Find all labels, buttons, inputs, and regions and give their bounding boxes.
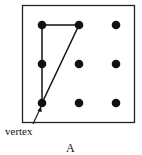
geoboard-diagram: vertex A <box>0 0 142 155</box>
peg-dot <box>112 60 121 69</box>
peg-dot <box>38 99 47 108</box>
figure-caption: A <box>66 141 75 155</box>
vertex-label: vertex <box>5 125 33 137</box>
peg-dot <box>38 60 47 69</box>
peg-dot <box>75 21 84 30</box>
peg-dot <box>75 99 84 108</box>
peg-dot <box>38 21 47 30</box>
peg-dot <box>75 60 84 69</box>
peg-dot <box>112 99 121 108</box>
triangle <box>42 25 79 103</box>
peg-dot <box>112 21 121 30</box>
peg-grid <box>38 21 121 108</box>
vertex-pointer-arrow <box>33 106 42 124</box>
triangle-edge-hypotenuse <box>42 25 79 103</box>
